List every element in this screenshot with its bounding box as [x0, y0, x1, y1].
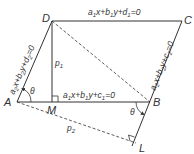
perpendicular-AL	[17, 102, 136, 143]
equation-top-line: a1x+b1y+d1=0	[88, 7, 141, 18]
distance-label-p2: p2	[66, 123, 76, 134]
equation-bottom-line: a1x+b1y+c1=0	[63, 90, 115, 101]
equation-right-line: a2x+b2y+c2=0	[148, 40, 177, 93]
point-label-A: A	[3, 96, 11, 108]
point-label-C: C	[184, 14, 192, 26]
point-label-B: B	[153, 96, 160, 108]
right-angle-mark-M	[52, 96, 58, 102]
point-label-D: D	[42, 12, 50, 24]
angle-label-A: θ	[30, 86, 35, 96]
distance-label-p1: p1	[54, 58, 63, 69]
point-label-M: M	[47, 104, 57, 116]
parallelogram-diagram: A B C D M L θ θ p1 p2 a1x+b1y+d1=0 a1x+b…	[0, 0, 194, 154]
point-label-L: L	[139, 142, 145, 154]
angle-arc-B	[136, 102, 143, 114]
right-angle-mark-L	[129, 135, 135, 141]
angle-label-B: θ	[130, 107, 135, 117]
